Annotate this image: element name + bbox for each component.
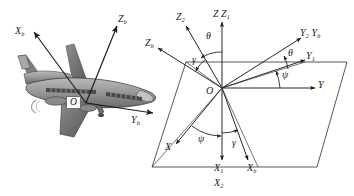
euler-origin-label: O [206,86,213,96]
euler-diagram [152,22,347,167]
figure-root: Xb Zb Yb O Z2 Z Z1 Y₂ Yb Y1 Y Zb X X1 X2… [0,0,354,196]
ground-plane [152,62,347,167]
euler-angle-gamma-lower: γ [232,138,236,148]
euler-label-xb: Xb [247,163,256,173]
euler-label-zb: Zb [145,38,154,48]
euler-angle-gamma-upper: γ [192,55,196,65]
euler-label-y: Y [318,80,324,90]
euler-angle-psi-right: ψ [282,70,288,80]
euler-label-y1: Y1 [306,51,315,61]
euler-label-z-z1: Z Z1 [213,9,230,19]
aircraft-label-yb: Yb [131,115,140,125]
euler-angle-theta-right: θ [288,48,293,58]
euler-angle-theta-upper: θ [206,31,211,41]
aircraft-label-zb: Zb [118,14,127,24]
euler-label-y2-yb: Y₂ Yb [300,28,320,38]
euler-label-z2: Z2 [176,12,185,22]
aircraft-origin-label: O [66,96,81,109]
aircraft-label-xb: Xb [15,26,24,36]
euler-angle-psi-lower: ψ [198,134,204,144]
euler-label-x: X [165,142,171,152]
euler-label-x2: X2 [214,178,223,188]
euler-label-x1: X1 [214,163,223,173]
